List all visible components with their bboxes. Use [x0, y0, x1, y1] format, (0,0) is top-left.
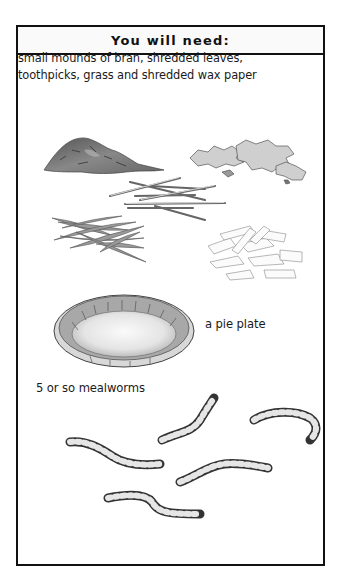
mealworms-label: 5 or so mealworms [36, 381, 145, 395]
pie-plate-label: a pie plate [205, 317, 265, 331]
mealworm-icon [70, 442, 160, 465]
bran-mound-icon [44, 138, 164, 174]
shredded-leaves-icon [190, 140, 306, 184]
shredded-wax-paper-icon [208, 226, 302, 280]
toothpicks-icon [110, 178, 225, 220]
illustrations [0, 0, 339, 580]
mealworm-icon [180, 463, 268, 482]
pie-plate-icon [54, 295, 194, 367]
grass-icon [52, 216, 146, 262]
mealworm-icon [254, 412, 316, 440]
mealworm-icon [108, 495, 200, 514]
mealworm-icon [162, 398, 214, 440]
